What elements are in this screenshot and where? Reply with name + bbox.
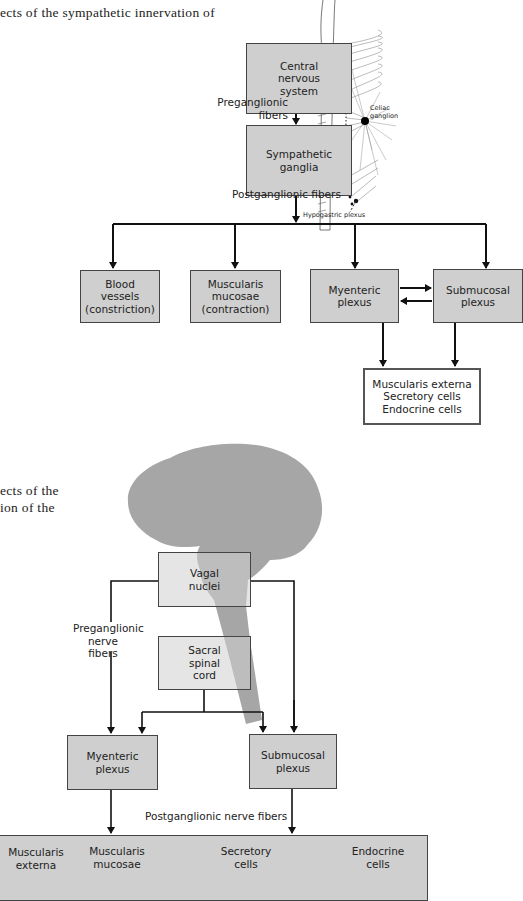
parasympathetic-connectors [0,0,520,898]
